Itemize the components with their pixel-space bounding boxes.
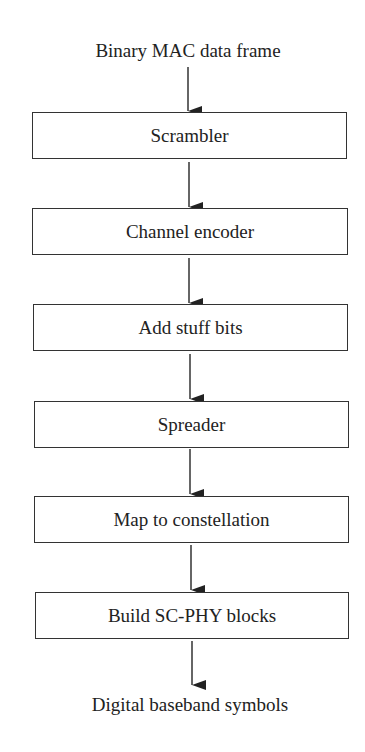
step-scrambler: Scrambler [32, 112, 347, 159]
input-label: Binary MAC data frame [0, 40, 365, 62]
output-label: Digital baseband symbols [2, 694, 365, 716]
step-channel-encoder: Channel encoder [32, 208, 348, 255]
step-spreader: Spreader [34, 401, 349, 448]
step-map-to-constellation: Map to constellation [34, 496, 349, 543]
step-build-sc-phy-blocks: Build SC-PHY blocks [35, 592, 349, 639]
step-add-stuff-bits: Add stuff bits [33, 304, 348, 351]
